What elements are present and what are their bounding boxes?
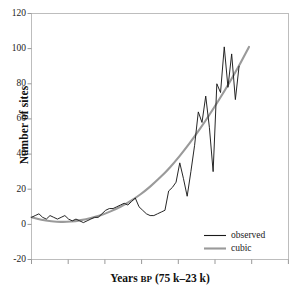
x-axis-title-range: (75 k–23 k) (155, 272, 210, 284)
legend-label-cubic: cubic (231, 244, 252, 254)
y-tick-label-40: 40 (2, 149, 26, 159)
y-axis-title: Number of sites (18, 55, 30, 195)
x-axis-title-main: Years (110, 272, 137, 284)
y-tick-label--20: -20 (2, 255, 26, 265)
y-tick-label-0: 0 (2, 220, 26, 230)
x-axis-ticks (32, 260, 289, 265)
x-axis-title-bp: BP (141, 274, 153, 284)
y-tick-label-120: 120 (2, 9, 26, 19)
y-tick-label-100: 100 (2, 44, 26, 54)
y-tick-label-80: 80 (2, 79, 26, 89)
y-tick-label-20: 20 (2, 185, 26, 195)
y-tick-label-60: 60 (2, 114, 26, 124)
legend-label-observed: observed (231, 231, 265, 241)
chart-figure: Number of sites 120 100 80 60 40 20 0 -2… (0, 0, 302, 293)
x-axis-title: Years BP (75 k–23 k) (31, 272, 289, 284)
chart-canvas (0, 0, 302, 293)
